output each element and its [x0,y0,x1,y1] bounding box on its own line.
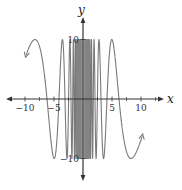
function-graph: −10−5510 10−10 x y [0,0,182,190]
x-tick-label: −5 [47,103,61,113]
x-axis-label: x [167,92,174,106]
y-tick-label: 10 [68,35,80,45]
y-tick-label: −10 [60,154,79,164]
x-tick-label: 5 [109,103,115,113]
x-tick-label: −10 [16,103,35,113]
x-tick-label: 10 [135,103,147,113]
y-axis-label: y [77,3,85,17]
